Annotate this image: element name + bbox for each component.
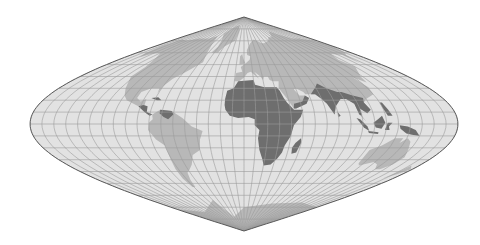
graticule xyxy=(30,17,458,231)
world-map: Sinusoidal projection world map xyxy=(0,0,480,245)
map-title: Sinusoidal projection world map xyxy=(0,0,1,1)
sinusoidal-map-canvas xyxy=(0,0,480,245)
